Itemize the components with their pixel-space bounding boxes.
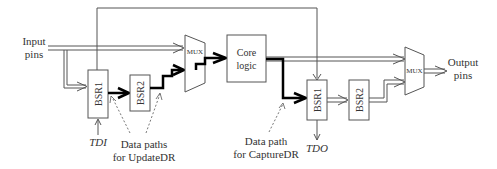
input-pins-label-2: pins	[25, 48, 43, 60]
output-pins-label-2: pins	[454, 69, 472, 81]
capture-note-label-2: for CaptureDR	[233, 148, 299, 160]
capture-note-label-1: Data path	[245, 135, 288, 147]
mux-input-label: MUX	[187, 48, 203, 56]
bsr2-input-label: BSR2	[135, 81, 146, 105]
input-to-bsr1-line	[64, 50, 87, 91]
output-pins-label-1: Output	[448, 56, 479, 68]
bsr1-output-label: BSR1	[312, 88, 323, 112]
mux-output: MUX	[405, 47, 424, 95]
boundary-scan-diagram: BSR1 TDI BSR2 MUX Core logic	[0, 0, 497, 169]
core-logic-block: Core logic	[227, 35, 266, 82]
bsr1-to-bsr2-output-line	[327, 95, 348, 105]
bsr1-input-block: BSR1	[88, 70, 108, 118]
tdo-label: TDO	[306, 142, 328, 154]
update-note-label-2: for UpdateDR	[113, 151, 176, 163]
bsr1-output-block: BSR1	[307, 80, 327, 120]
core-to-output-mux-line	[266, 54, 405, 64]
core-logic-label-2: logic	[237, 60, 258, 71]
mux-output-label: MUX	[406, 67, 422, 75]
core-logic-label-1: Core	[237, 47, 257, 58]
update-path-bsr2-to-mux	[150, 65, 184, 88]
bsr2-to-output-mux-line	[369, 77, 405, 102]
bsr1-input-label: BSR1	[93, 82, 104, 106]
tdi-arrow	[95, 119, 101, 135]
capture-path-core-to-bsr1	[266, 59, 306, 103]
tdo-arrow	[314, 120, 320, 140]
bsr2-output-block: BSR2	[349, 80, 369, 120]
bsr2-input-block: BSR2	[130, 75, 150, 111]
mux-to-output-pins-line	[424, 66, 447, 76]
bsr2-output-label: BSR2	[354, 88, 365, 112]
input-to-mux-line	[48, 43, 184, 53]
top-bypass-line	[97, 8, 321, 80]
tdi-label: TDI	[89, 136, 108, 148]
update-note-label-1: Data paths	[121, 138, 168, 150]
input-pins-label-1: Input	[22, 35, 45, 47]
capture-annotation-pointer	[269, 103, 285, 132]
